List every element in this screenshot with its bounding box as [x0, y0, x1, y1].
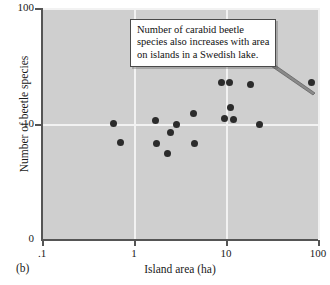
figure-panel-b: 101000 .1110100 Number of beetle species…: [0, 0, 330, 285]
data-point: [153, 140, 160, 147]
y-tick-100: [35, 8, 41, 10]
data-point: [227, 104, 234, 111]
data-point: [221, 115, 228, 122]
data-point: [164, 150, 171, 157]
data-point: [173, 121, 180, 128]
x-tick-1: [134, 240, 136, 246]
x-ticklabel-10: 10: [221, 248, 232, 259]
x-tick-100: [318, 240, 320, 246]
data-point: [190, 110, 197, 117]
data-point: [167, 129, 174, 136]
annotation-line-2: species also increases with area: [137, 36, 270, 48]
x-axis-label: Island area (ha): [42, 263, 318, 275]
data-point: [226, 79, 233, 86]
x-ticklabel-1: 1: [131, 248, 137, 259]
data-point: [247, 81, 254, 88]
y-tick-10: [35, 124, 41, 126]
x-ticklabel-0.1: .1: [38, 248, 46, 259]
x-tick-10: [226, 240, 228, 246]
y-axis-line: [41, 8, 43, 240]
annotation-callout: Number of carabid beetle species also in…: [130, 19, 276, 67]
y-ticklabel-origin: 0: [29, 233, 35, 244]
x-axis-line: [41, 239, 318, 241]
data-point: [230, 116, 237, 123]
annotation-line-1: Number of carabid beetle: [137, 24, 270, 36]
gridline-x-100: [318, 8, 320, 239]
x-tick-0.1: [42, 240, 44, 246]
data-point: [152, 117, 159, 124]
data-point: [256, 121, 263, 128]
x-ticklabel-100: 100: [310, 248, 327, 259]
panel-label: (b): [16, 262, 29, 274]
data-point: [218, 79, 225, 86]
y-ticklabel-100: 100: [18, 2, 35, 13]
data-point: [191, 140, 198, 147]
y-axis-label: Number of beetle species: [18, 14, 30, 214]
data-point: [117, 139, 124, 146]
annotation-line-3: on islands in a Swedish lake.: [137, 49, 270, 61]
gridline-y-100: [42, 8, 318, 10]
data-point: [110, 120, 117, 127]
